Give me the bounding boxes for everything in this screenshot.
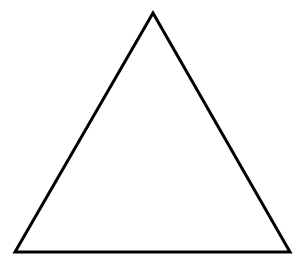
triangle-figure bbox=[0, 0, 302, 270]
drawing-canvas bbox=[0, 0, 302, 270]
canvas-background bbox=[0, 0, 302, 270]
